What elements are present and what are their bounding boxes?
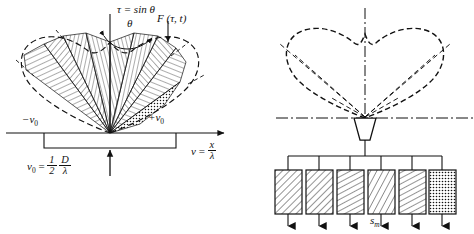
v0-ratio-fraction: Dλ: [59, 155, 71, 177]
bus-drops: [288, 156, 442, 170]
delay-box-5[interactable]: [399, 170, 426, 214]
v0-equals: =: [36, 160, 48, 172]
theta-angle-label: θ: [127, 18, 132, 29]
transducer-horn: [354, 118, 376, 140]
v0-definition-label: v0 = 12 Dλ: [27, 155, 71, 177]
tick-label-plus-v0: +v0: [148, 112, 164, 126]
sm-signal-label: sm: [370, 215, 380, 229]
v-axis-equals: =: [196, 145, 208, 157]
delay-box-4[interactable]: [368, 170, 395, 214]
tick-minus-v-sub: 0: [34, 119, 38, 128]
sm-label-sub: m: [374, 220, 379, 229]
delay-box-2[interactable]: [306, 170, 333, 214]
delay-box-1[interactable]: [275, 170, 302, 214]
tick-plus-v-text: +v: [148, 111, 160, 123]
tick-label-minus-v0: −v0: [22, 114, 38, 128]
f-function-label: F (τ, t): [157, 13, 186, 24]
v0-half-fraction: 12: [47, 155, 56, 177]
v-axis-equation-label: v = xλ: [191, 140, 216, 162]
delay-box-group: [275, 170, 456, 214]
figure-vector-layer: [0, 0, 474, 234]
tick-minus-v-text: −v: [22, 113, 34, 125]
v-axis-frac-den: λ: [208, 151, 217, 161]
v-axis-fraction: xλ: [208, 140, 217, 162]
output-arrows: [288, 214, 442, 226]
tau-equation-label: τ = sin θ: [117, 4, 155, 15]
delay-box-3[interactable]: [337, 170, 364, 214]
v0-ratio-den: λ: [59, 166, 71, 176]
delay-box-6[interactable]: [429, 170, 456, 214]
v0-span-bracket: [44, 133, 176, 148]
tick-plus-v-sub: 0: [160, 117, 164, 126]
figure-canvas: τ = sin θ θ F (τ, t) −v0 +v0 v = xλ v0 =…: [0, 0, 474, 234]
v0-half-den: 2: [47, 166, 56, 176]
